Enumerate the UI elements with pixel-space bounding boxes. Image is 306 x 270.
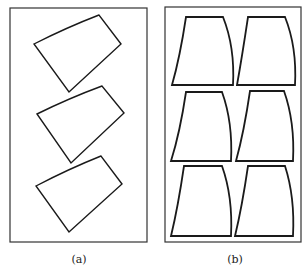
- trapezoid-shape-3: [171, 92, 231, 161]
- caption-b: (b): [215, 253, 255, 266]
- quadrilateral-shape-1: [34, 15, 121, 92]
- quadrilateral-shape-3: [36, 156, 122, 232]
- caption-a: (a): [59, 253, 99, 266]
- panel-b: [165, 7, 301, 242]
- trapezoid-shape-6: [235, 166, 293, 236]
- panel-b-frame: [165, 7, 301, 242]
- panel-a-frame: [10, 8, 147, 242]
- trapezoid-shape-2: [237, 17, 295, 85]
- trapezoid-shape-5: [171, 166, 231, 236]
- trapezoid-shape-1: [172, 17, 233, 85]
- diagram-figure: [0, 0, 306, 270]
- quadrilateral-shape-2: [37, 86, 124, 163]
- trapezoid-shape-4: [236, 91, 293, 161]
- panel-a: [10, 8, 147, 242]
